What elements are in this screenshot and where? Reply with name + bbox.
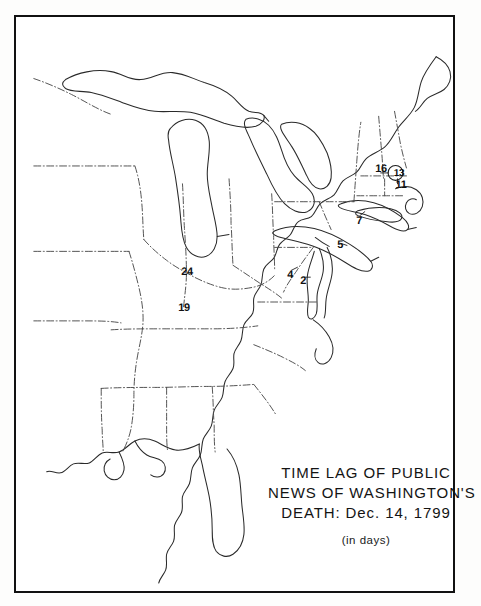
border-georgia-southcarolina: [254, 384, 276, 414]
border-appalachian-virginia: [233, 265, 282, 298]
mississippi-delta-outline: [104, 441, 165, 480]
outer-banks-outline: [313, 320, 333, 364]
border-indiana-ohio: [229, 179, 233, 265]
day-label-11: 11: [396, 180, 407, 191]
border-arkansas-territory: [34, 321, 121, 323]
map-frame: 16 13 11 7 5 4 2 24 19 TIME LAG OF PUBLI…: [14, 15, 455, 593]
chesapeake-bay-outline: [307, 248, 323, 319]
cape-cod-outline: [396, 187, 423, 215]
lake-michigan-outline: [168, 119, 217, 257]
scanned-page: 16 13 11 7 5 4 2 24 19 TIME LAG OF PUBLI…: [0, 0, 481, 606]
day-label-13: 13: [394, 169, 404, 179]
map-title-block: TIME LAG OF PUBLIC NEWS OF WASHINGTON'S …: [268, 463, 464, 546]
lake-huron-outline: [244, 118, 314, 212]
day-label-2: 2: [300, 276, 306, 287]
day-label-4: 4: [287, 270, 293, 281]
gulf-coastline: [47, 439, 200, 473]
lake-erie-outline: [273, 226, 373, 271]
border-mississippi-alabama: [167, 387, 168, 451]
border-louisiana-west: [101, 388, 103, 452]
delmarva-outline: [324, 247, 332, 318]
border-northern-tier: [34, 79, 111, 115]
border-kentucky-tennessee: [111, 326, 258, 330]
day-label-24: 24: [181, 267, 192, 278]
border-newjersey-newyork: [319, 202, 331, 230]
map-title-subtitle: (in days): [268, 534, 464, 546]
day-label-16: 16: [375, 164, 386, 175]
day-label-19: 19: [178, 303, 189, 314]
day-label-7: 7: [356, 216, 362, 227]
delaware-bay-outline: [315, 237, 329, 246]
border-tennessee-south: [101, 384, 254, 388]
border-illinois-indiana: [182, 184, 186, 308]
florida-peninsula-outline: [199, 444, 244, 556]
lake-ontario-outline: [338, 201, 408, 231]
border-northcarolina-southcarolina: [254, 345, 306, 371]
map-title-line-2: NEWS OF WASHINGTON'S: [268, 483, 464, 503]
border-ohio-river: [144, 239, 276, 289]
border-mississippi-river: [123, 251, 143, 451]
border-wisconsin-illinois: [135, 166, 144, 239]
map-title-line-1: TIME LAG OF PUBLIC: [268, 463, 464, 483]
georgian-bay-outline: [281, 122, 332, 189]
map-title-line-3: DEATH: Dec. 14, 1799: [268, 503, 464, 523]
border-newyork-vermont: [354, 122, 361, 201]
page-caption: [16, 597, 316, 606]
day-label-5: 5: [337, 240, 343, 251]
lake-superior-outline: [63, 71, 265, 128]
